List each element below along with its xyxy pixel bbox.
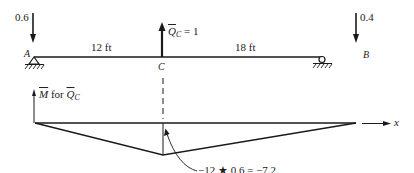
- moment-diagram-shape: [35, 123, 356, 155]
- support-a-label: A: [24, 49, 30, 59]
- down-arrow-icon-left: [30, 13, 36, 43]
- virtual-load-symbol: Q: [168, 25, 176, 37]
- up-arrow-icon-qc: [159, 22, 166, 57]
- left-reaction-value: 0.6: [15, 12, 29, 23]
- moment-annotation: −12 ★ 0.6 = −7.2: [198, 165, 276, 173]
- down-arrow-icon-right: [353, 13, 359, 43]
- roller-support-b-icon: [313, 57, 332, 69]
- moment-axis-arrow-icon: [32, 89, 36, 123]
- diagram-canvas: [0, 0, 414, 173]
- support-b-label: B: [363, 50, 369, 60]
- moment-diagram-title: M for QC: [39, 89, 80, 102]
- moment-symbol: M: [39, 88, 48, 100]
- right-reaction-value: 0.4: [360, 12, 374, 23]
- span-left-label: 12 ft: [91, 42, 111, 53]
- point-c-label: C: [158, 62, 165, 72]
- span-right-label: 18 ft: [235, 42, 255, 53]
- moment-label-q-sub: C: [74, 93, 79, 102]
- virtual-load-equation: = 1: [181, 25, 198, 37]
- virtual-load-label: QC = 1: [168, 26, 199, 39]
- x-axis-label: x: [394, 117, 399, 128]
- moment-label-mid: for: [48, 88, 66, 100]
- x-axis-arrow-icon: [362, 121, 391, 126]
